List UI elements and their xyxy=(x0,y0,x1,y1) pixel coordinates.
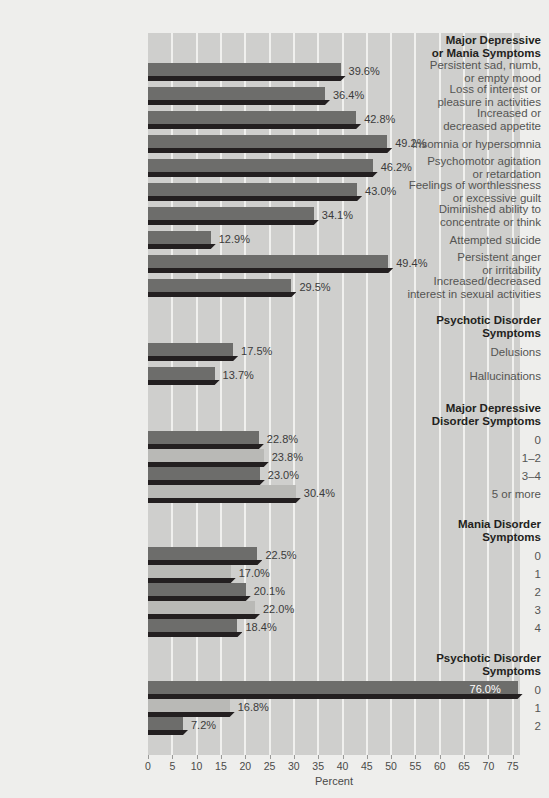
bar-value-label: 13.7% xyxy=(223,369,254,381)
bar xyxy=(148,87,325,100)
bar-value-label: 22.5% xyxy=(265,549,296,561)
category-label: Insomnia or hypersomnia xyxy=(401,138,549,151)
axis-tick xyxy=(464,755,465,759)
bar xyxy=(148,111,356,124)
axis-tick xyxy=(197,755,198,759)
category-label: 2 xyxy=(401,586,549,599)
axis-tick-label: 70 xyxy=(483,760,495,772)
bar-value-label: 20.1% xyxy=(254,585,285,597)
bar xyxy=(148,367,215,380)
bar xyxy=(148,431,259,444)
axis-tick xyxy=(367,755,368,759)
bar-value-label: 7.2% xyxy=(191,719,216,731)
bar xyxy=(148,343,233,356)
category-label: 2 xyxy=(401,720,549,733)
category-label: Attempted suicide xyxy=(401,234,549,247)
x-axis-title: Percent xyxy=(148,775,520,787)
axis-tick xyxy=(294,755,295,759)
bar-shadow xyxy=(148,124,361,129)
axis-tick xyxy=(343,755,344,759)
bar-value-label: 17.5% xyxy=(241,345,272,357)
axis-tick xyxy=(440,755,441,759)
x-axis: 051015202530354045505560657075 Percent xyxy=(148,755,520,795)
bar-shadow xyxy=(148,172,378,177)
axis-tick xyxy=(391,755,392,759)
category-label: 4 xyxy=(401,622,549,635)
axis-tick xyxy=(318,755,319,759)
category-label: 1–2 xyxy=(401,452,549,465)
group-heading: Major Depressive or Mania Symptoms xyxy=(401,34,549,60)
bar-value-label: 17.0% xyxy=(239,567,270,579)
bar-value-label: 43.0% xyxy=(365,185,396,197)
axis-tick-label: 45 xyxy=(361,760,373,772)
bar-shadow xyxy=(148,356,238,361)
category-label: Persistent anger or irritability xyxy=(401,251,549,277)
group-heading: Psychotic Disorder Symptoms xyxy=(401,314,549,340)
axis-tick-label: 50 xyxy=(385,760,397,772)
bar xyxy=(148,231,211,244)
bar-value-label: 30.4% xyxy=(304,487,335,499)
bar xyxy=(148,63,341,76)
bar-value-label: 22.8% xyxy=(267,433,298,445)
category-label: Delusions xyxy=(401,346,549,359)
bar xyxy=(148,467,260,480)
bar-value-label: 12.9% xyxy=(219,233,250,245)
bar-value-label: 23.8% xyxy=(272,451,303,463)
group-heading: Psychotic Disorder Symptoms xyxy=(401,652,549,678)
bar-value-label: 18.4% xyxy=(245,621,276,633)
bar-value-label: 23.0% xyxy=(268,469,299,481)
group-heading: Major Depressive Disorder Symptoms xyxy=(401,402,549,428)
category-label: 0 xyxy=(401,550,549,563)
bar-value-label: 22.0% xyxy=(263,603,294,615)
axis-tick-label: 75 xyxy=(507,760,519,772)
category-label: 1 xyxy=(401,702,549,715)
axis-tick xyxy=(148,755,149,759)
category-label: 0 xyxy=(401,684,549,697)
chart-root: 39.6%36.4%42.8%49.2%46.2%43.0%34.1%12.9%… xyxy=(0,0,549,798)
bar-value-label: 42.8% xyxy=(364,113,395,125)
axis-tick-label: 25 xyxy=(264,760,276,772)
bar-shadow xyxy=(148,196,362,201)
axis-tick xyxy=(488,755,489,759)
category-label: Loss of interest or pleasure in activiti… xyxy=(401,83,549,109)
bar xyxy=(148,135,387,148)
bar xyxy=(148,601,255,614)
bar xyxy=(148,485,296,498)
category-label: 3–4 xyxy=(401,470,549,483)
bar-shadow xyxy=(148,244,216,249)
bar-value-label: 36.4% xyxy=(333,89,364,101)
category-label: Increased or decreased appetite xyxy=(401,107,549,133)
axis-tick xyxy=(270,755,271,759)
category-label: 1 xyxy=(401,568,549,581)
axis-tick xyxy=(221,755,222,759)
axis-tick-label: 60 xyxy=(434,760,446,772)
axis-tick xyxy=(415,755,416,759)
bar-shadow xyxy=(148,730,188,735)
axis-tick-label: 0 xyxy=(145,760,151,772)
group-heading: Mania Disorder Symptoms xyxy=(401,518,549,544)
gridline xyxy=(390,33,392,755)
bar-value-label: 34.1% xyxy=(322,209,353,221)
bar-shadow xyxy=(148,268,393,273)
axis-tick xyxy=(513,755,514,759)
bar-value-label: 16.8% xyxy=(238,701,269,713)
axis-tick-label: 35 xyxy=(312,760,324,772)
bar-shadow xyxy=(148,498,301,503)
category-label: 5 or more xyxy=(401,488,549,501)
bar-shadow xyxy=(148,100,330,105)
bar-shadow xyxy=(148,76,346,81)
bar xyxy=(148,565,231,578)
bar-shadow xyxy=(148,292,296,297)
axis-tick xyxy=(172,755,173,759)
category-label: Increased/decreased interest in sexual a… xyxy=(401,275,549,301)
axis-tick-label: 30 xyxy=(288,760,300,772)
bar xyxy=(148,583,246,596)
bar xyxy=(148,449,264,462)
axis-tick-label: 55 xyxy=(410,760,422,772)
bar xyxy=(148,159,373,172)
bar xyxy=(148,619,237,632)
bar-shadow xyxy=(148,380,220,385)
bar-shadow xyxy=(148,220,319,225)
bar xyxy=(148,255,388,268)
category-label: 3 xyxy=(401,604,549,617)
